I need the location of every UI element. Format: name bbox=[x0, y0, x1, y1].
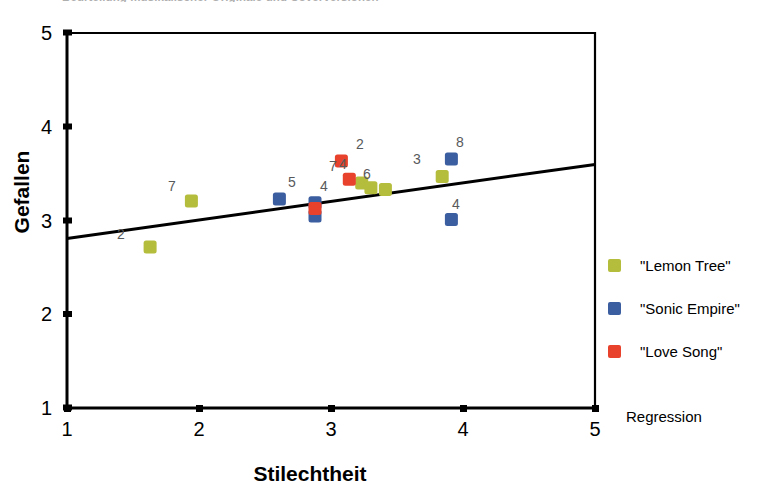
data-point bbox=[445, 213, 458, 226]
axis-frame bbox=[67, 33, 595, 408]
x-axis-title: Stilechtheit bbox=[0, 462, 620, 486]
x-tick-label-3: 3 bbox=[318, 419, 344, 439]
y-tick-label-1: 1 bbox=[26, 398, 52, 418]
point-label: 7 bbox=[168, 179, 176, 193]
y-tick-label-5: 5 bbox=[26, 23, 52, 43]
point-label: 2 bbox=[117, 227, 125, 241]
point-label: 2 bbox=[356, 137, 364, 151]
x-tick-label-1: 1 bbox=[54, 419, 80, 439]
legend-label: "Sonic Empire" bbox=[640, 300, 740, 317]
data-point bbox=[445, 153, 458, 166]
legend-label: Regression bbox=[626, 408, 754, 425]
legend-item-love-song[interactable]: "Love Song" bbox=[604, 330, 754, 373]
data-point bbox=[436, 170, 449, 183]
legend-item-lemon-tree[interactable]: "Lemon Tree" bbox=[604, 244, 754, 287]
regression-line bbox=[67, 164, 595, 238]
legend: "Lemon Tree" "Sonic Empire" "Love Song" … bbox=[604, 244, 754, 425]
data-point bbox=[185, 194, 198, 207]
data-point bbox=[343, 173, 356, 186]
point-label: 6 bbox=[363, 167, 371, 181]
point-label: 4 bbox=[320, 179, 328, 193]
scatter-chart: Beurteilung musikalischer Originale und … bbox=[0, 0, 757, 502]
legend-label: "Love Song" bbox=[640, 343, 722, 360]
point-label: 5 bbox=[288, 175, 296, 189]
x-tick-label-2: 2 bbox=[186, 419, 212, 439]
data-point bbox=[379, 183, 392, 196]
legend-swatch-icon bbox=[608, 259, 621, 272]
point-label: 7 bbox=[329, 159, 337, 173]
data-point bbox=[364, 181, 377, 194]
point-label: 8 bbox=[456, 135, 464, 149]
data-point bbox=[273, 193, 286, 206]
legend-label: "Lemon Tree" bbox=[640, 257, 731, 274]
point-label: 4 bbox=[339, 157, 347, 171]
y-tick-label-2: 2 bbox=[26, 304, 52, 324]
y-axis-title: Gefallen bbox=[10, 132, 34, 252]
data-point bbox=[309, 202, 322, 215]
point-label: 4 bbox=[452, 197, 460, 211]
legend-item-regression[interactable]: Regression bbox=[604, 380, 754, 425]
series-lemon-tree-markers bbox=[144, 170, 449, 253]
legend-item-sonic-empire[interactable]: "Sonic Empire" bbox=[604, 287, 754, 330]
data-point bbox=[144, 240, 157, 253]
legend-swatch-icon bbox=[608, 302, 621, 315]
x-tick-label-4: 4 bbox=[450, 419, 476, 439]
legend-swatch-icon bbox=[608, 345, 621, 358]
point-label: 3 bbox=[413, 152, 421, 166]
